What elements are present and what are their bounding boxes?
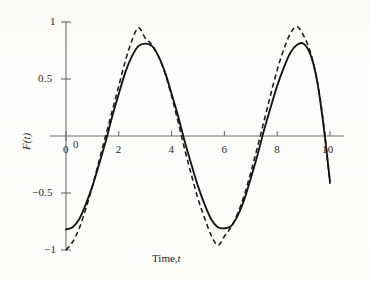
x-axis-title: Time,t xyxy=(152,252,181,264)
x-tick-label: 2 xyxy=(116,143,122,155)
y-tick-label: −1 xyxy=(44,243,56,255)
x-tick-label: 0 xyxy=(63,143,69,155)
x-tick-label: 8 xyxy=(274,143,280,155)
chart-figure: 0246810 10.50−0.5−1 Time,t F(t) xyxy=(0,0,370,281)
x-axis-title-text: Time, xyxy=(152,252,178,264)
y-tick-label: 0.5 xyxy=(38,72,52,84)
x-tick-label: 4 xyxy=(169,143,175,155)
data-curves xyxy=(66,27,330,250)
x-tick-label: 6 xyxy=(221,143,227,155)
x-axis-title-symbol: t xyxy=(178,252,181,264)
x-tick-label: 10 xyxy=(322,143,333,155)
y-tick-label: 0 xyxy=(73,138,79,150)
y-tick-label: 1 xyxy=(50,15,56,27)
y-tick-label: −0.5 xyxy=(32,186,53,198)
y-axis-title: F(t) xyxy=(20,133,32,150)
axes-group xyxy=(50,21,344,251)
plot-canvas xyxy=(0,0,370,281)
